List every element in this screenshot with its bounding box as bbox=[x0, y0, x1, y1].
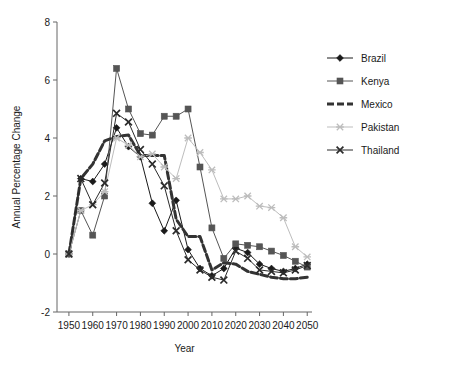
x-tick-label: 1970 bbox=[105, 320, 128, 331]
legend-item-mexico[interactable]: Mexico bbox=[327, 99, 393, 110]
data-point bbox=[149, 132, 155, 138]
data-point bbox=[161, 182, 168, 189]
data-point bbox=[125, 119, 132, 126]
data-point bbox=[208, 167, 216, 173]
legend-label-pakistan: Pakistan bbox=[361, 122, 399, 133]
data-point bbox=[197, 164, 203, 170]
data-point bbox=[292, 244, 300, 250]
data-point bbox=[209, 225, 215, 231]
data-point bbox=[149, 200, 156, 207]
data-point bbox=[220, 277, 227, 284]
chart-container: -202468195019601970198019902000201020202… bbox=[0, 0, 456, 377]
x-tick-label: 2040 bbox=[272, 320, 295, 331]
data-point bbox=[245, 242, 251, 248]
legend-marker-brazil bbox=[337, 55, 344, 62]
data-point bbox=[220, 196, 228, 202]
data-point bbox=[257, 244, 263, 250]
legend-marker-pakistan bbox=[336, 124, 344, 130]
x-tick-label: 2050 bbox=[296, 320, 319, 331]
legend-label-brazil: Brazil bbox=[361, 53, 386, 64]
data-point bbox=[161, 227, 168, 234]
data-point bbox=[185, 106, 191, 112]
data-point bbox=[160, 164, 168, 170]
x-tick-label: 1990 bbox=[153, 320, 176, 331]
data-point bbox=[161, 113, 167, 119]
data-point bbox=[221, 255, 227, 261]
data-point bbox=[172, 175, 180, 181]
data-point bbox=[196, 149, 204, 155]
legend-label-thailand: Thailand bbox=[361, 145, 399, 156]
y-tick-label: 4 bbox=[44, 133, 50, 144]
data-point bbox=[173, 227, 180, 234]
data-point bbox=[125, 106, 131, 112]
data-point bbox=[268, 204, 276, 210]
x-tick-label: 1950 bbox=[58, 320, 81, 331]
data-point bbox=[173, 113, 179, 119]
y-tick-label: 6 bbox=[44, 75, 50, 86]
x-axis-title: Year bbox=[174, 343, 195, 354]
y-tick-label: 0 bbox=[44, 249, 50, 260]
legend: BrazilKenyaMexicoPakistanThailand bbox=[327, 53, 399, 156]
data-point bbox=[184, 135, 192, 141]
data-point bbox=[256, 203, 264, 209]
x-tick-label: 2000 bbox=[177, 320, 200, 331]
data-point bbox=[292, 258, 298, 264]
data-point bbox=[220, 265, 227, 272]
legend-marker-kenya bbox=[337, 78, 343, 84]
x-tick-label: 1960 bbox=[82, 320, 105, 331]
data-point bbox=[137, 131, 143, 137]
x-tick-label: 2030 bbox=[248, 320, 271, 331]
data-point bbox=[280, 215, 288, 221]
data-point bbox=[114, 65, 120, 71]
x-tick-label: 2010 bbox=[201, 320, 224, 331]
data-point bbox=[232, 196, 240, 202]
y-tick-label: 2 bbox=[44, 191, 50, 202]
legend-item-brazil[interactable]: Brazil bbox=[327, 53, 386, 64]
data-point bbox=[268, 248, 274, 254]
legend-item-thailand[interactable]: Thailand bbox=[327, 145, 399, 156]
legend-item-kenya[interactable]: Kenya bbox=[327, 76, 390, 87]
data-point bbox=[89, 178, 96, 185]
line-chart: -202468195019601970198019902000201020202… bbox=[0, 0, 456, 377]
data-point bbox=[280, 252, 286, 258]
x-tick-label: 1980 bbox=[129, 320, 152, 331]
legend-label-kenya: Kenya bbox=[361, 76, 390, 87]
y-tick-label: 8 bbox=[44, 17, 50, 28]
data-point bbox=[149, 161, 156, 168]
y-tick-label: -2 bbox=[41, 307, 50, 318]
y-axis-title: Annual Percentage Change bbox=[11, 105, 22, 228]
x-tick-label: 2020 bbox=[225, 320, 248, 331]
legend-item-pakistan[interactable]: Pakistan bbox=[327, 122, 399, 133]
data-point bbox=[244, 193, 252, 199]
data-point bbox=[90, 232, 96, 238]
data-point bbox=[185, 256, 192, 263]
data-point bbox=[303, 254, 311, 260]
data-point bbox=[233, 241, 239, 247]
data-point bbox=[185, 246, 192, 253]
legend-label-mexico: Mexico bbox=[361, 99, 393, 110]
